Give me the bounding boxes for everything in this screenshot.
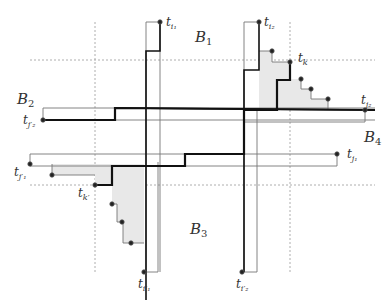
diagram-canvas: B1 B2 B3 B4 ti₁ ti₂ tk tj₂ tj′₂ tj₁ tj′₁… [0, 0, 390, 304]
region-label-b2: B2 [16, 90, 34, 109]
point-label-tk-prime: tk′ [78, 186, 90, 202]
region-label-b3: B3 [189, 220, 207, 239]
point-label-tj2: tj₂ [361, 93, 372, 109]
region-label-b1: B1 [194, 28, 212, 47]
point-label-tj1: tj₁ [347, 147, 358, 163]
point-label-ti2: ti₂ [264, 15, 275, 31]
thick-paths [43, 22, 375, 300]
point-label-tj1-prime: tj′₁ [14, 165, 26, 181]
point-label-tk: tk [298, 51, 308, 67]
region-label-b4: B4 [363, 128, 381, 147]
point-label-ti2-prime: ti′₂ [236, 277, 248, 293]
point-label-ti1-prime: ti′₁ [138, 277, 150, 293]
point-label-ti1: ti₁ [166, 15, 177, 31]
point-label-tj2-prime: tj′₂ [23, 113, 35, 129]
